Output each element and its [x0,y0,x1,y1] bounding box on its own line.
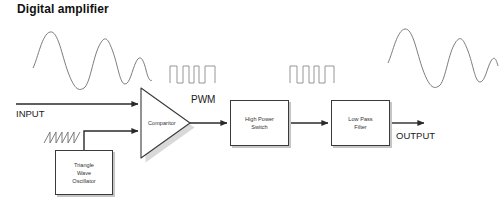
pwm-waveform-1 [170,66,215,83]
pwm-waveform-2 [290,66,334,83]
block-triangle-wave-oscillator[interactable]: Triangle Wave Oscillator [55,150,113,195]
oscillator-connector [84,131,138,150]
input-waveform [33,32,152,90]
block-low-pass-filter[interactable]: Low Pass Filter [331,100,390,146]
block-high-power-switch-label: High Power Switch [231,115,288,131]
pwm-label: PWM [191,94,215,105]
block-high-power-switch[interactable]: High Power Switch [230,100,289,146]
diagram-canvas: Digital amplifier [0,0,502,214]
block-triangle-wave-oscillator-label: Triangle Wave Oscillator [56,160,112,184]
block-low-pass-filter-label: Low Pass Filter [332,115,389,131]
input-label: INPUT [16,108,45,119]
output-label: OUTPUT [396,130,435,141]
output-waveform [388,29,498,87]
comparator-label: Comparitor [148,120,176,126]
triangle-waveform [44,132,80,143]
